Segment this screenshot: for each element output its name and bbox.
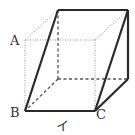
label-b: B [10, 105, 20, 120]
label-edge-i: イ [56, 118, 69, 133]
cube-diagram: A B C イ [0, 0, 135, 135]
label-c: C [96, 107, 106, 122]
cube-figure: A B C イ [0, 0, 135, 135]
label-a: A [9, 33, 20, 48]
